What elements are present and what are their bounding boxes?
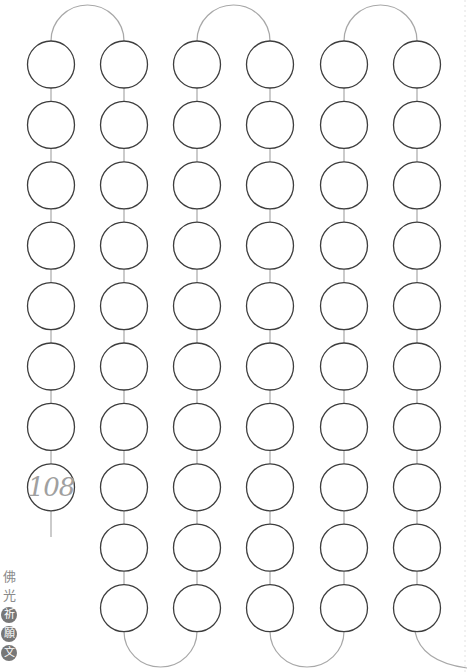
bead[interactable] xyxy=(321,343,368,390)
bead[interactable] xyxy=(394,162,441,209)
bead[interactable] xyxy=(247,222,294,269)
bead[interactable] xyxy=(174,464,221,511)
bead[interactable] xyxy=(101,222,148,269)
bead[interactable] xyxy=(28,403,75,450)
bead[interactable] xyxy=(321,283,368,330)
title-char-guang: 光 xyxy=(1,588,17,604)
bead[interactable] xyxy=(321,464,368,511)
bottom-arc xyxy=(124,632,197,667)
bead[interactable] xyxy=(28,101,75,148)
bead[interactable] xyxy=(394,222,441,269)
final-bead-number: 108 xyxy=(28,472,75,502)
bead[interactable] xyxy=(394,343,441,390)
bead[interactable] xyxy=(247,41,294,88)
bead[interactable] xyxy=(394,101,441,148)
bead[interactable] xyxy=(247,101,294,148)
vertical-title: 佛 光 祈 願 文 xyxy=(1,569,17,661)
bead[interactable] xyxy=(28,162,75,209)
bead[interactable] xyxy=(174,222,221,269)
top-arc xyxy=(51,5,124,41)
bead[interactable] xyxy=(101,585,148,632)
bead[interactable] xyxy=(394,41,441,88)
bead[interactable] xyxy=(247,343,294,390)
bottom-arc xyxy=(270,632,344,667)
bead[interactable] xyxy=(28,41,75,88)
bead[interactable] xyxy=(101,162,148,209)
bead[interactable] xyxy=(101,101,148,148)
bead-grid: 108 xyxy=(28,41,441,632)
bead[interactable] xyxy=(321,222,368,269)
bead[interactable] xyxy=(28,222,75,269)
bead[interactable] xyxy=(28,283,75,330)
bead[interactable] xyxy=(321,101,368,148)
bead[interactable] xyxy=(394,403,441,450)
bead[interactable] xyxy=(321,403,368,450)
top-arc xyxy=(344,5,417,41)
bead[interactable] xyxy=(247,283,294,330)
bead[interactable] xyxy=(101,464,148,511)
bead[interactable] xyxy=(174,403,221,450)
bead[interactable] xyxy=(174,41,221,88)
bead[interactable] xyxy=(28,343,75,390)
bead[interactable] xyxy=(321,524,368,571)
bead[interactable] xyxy=(247,585,294,632)
bead[interactable] xyxy=(247,464,294,511)
bead[interactable] xyxy=(321,585,368,632)
bead[interactable] xyxy=(247,524,294,571)
bead[interactable] xyxy=(394,585,441,632)
bead[interactable] xyxy=(247,162,294,209)
bead[interactable] xyxy=(174,283,221,330)
bead[interactable] xyxy=(321,41,368,88)
bead[interactable] xyxy=(101,283,148,330)
title-char-yuan: 願 xyxy=(1,626,17,642)
exit-curve xyxy=(415,632,467,668)
title-char-qi: 祈 xyxy=(1,607,17,623)
bead[interactable] xyxy=(174,524,221,571)
bead[interactable] xyxy=(174,585,221,632)
bead[interactable] xyxy=(394,464,441,511)
bead[interactable] xyxy=(247,403,294,450)
bead[interactable] xyxy=(174,101,221,148)
title-char-fo: 佛 xyxy=(1,569,17,585)
bead[interactable] xyxy=(101,403,148,450)
bead[interactable] xyxy=(101,343,148,390)
bead[interactable] xyxy=(174,343,221,390)
top-arc xyxy=(197,5,270,41)
bead[interactable] xyxy=(394,524,441,571)
bead[interactable] xyxy=(101,41,148,88)
bead[interactable] xyxy=(174,162,221,209)
bead[interactable] xyxy=(321,162,368,209)
bead[interactable] xyxy=(101,524,148,571)
bead[interactable] xyxy=(394,283,441,330)
title-char-wen: 文 xyxy=(1,645,17,661)
bead-chart: 108 xyxy=(0,0,467,672)
